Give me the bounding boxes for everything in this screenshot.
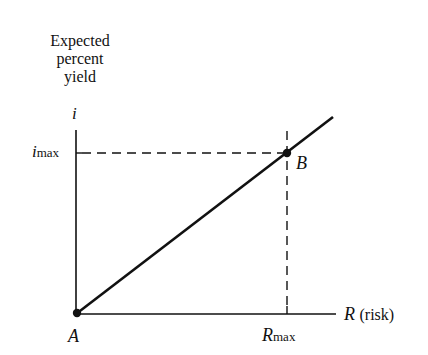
- point-b-label: B: [296, 153, 307, 174]
- r-max-sub: max: [273, 329, 295, 344]
- y-axis-title: Expected percent yield: [32, 32, 128, 86]
- y-axis-title-line-3: yield: [32, 68, 128, 86]
- point-a-dot: [73, 309, 81, 317]
- risk-yield-line: [76, 117, 333, 314]
- x-axis-title-text: (risk): [360, 306, 395, 323]
- x-axis-symbol: R: [344, 304, 355, 324]
- y-axis-title-line-1: Expected: [32, 32, 128, 50]
- x-axis-title: R (risk): [344, 304, 394, 325]
- i-max-sub: max: [37, 145, 59, 160]
- point-a-label: A: [68, 326, 79, 347]
- y-axis-title-line-2: percent: [32, 50, 128, 68]
- i-max-label: imax: [32, 142, 59, 162]
- r-max-base: R: [262, 325, 273, 345]
- y-axis-symbol: i: [72, 104, 77, 124]
- point-b-dot: [283, 149, 291, 157]
- r-max-label: Rmax: [262, 325, 295, 346]
